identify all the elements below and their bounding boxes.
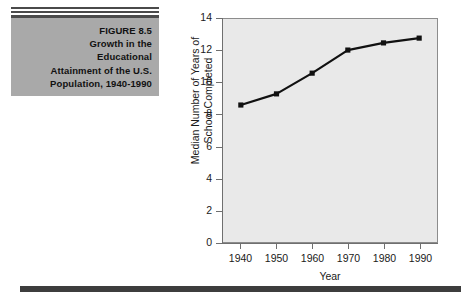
x-tick-1990: 1990: [420, 243, 421, 249]
caption-rule-middle: [11, 11, 159, 13]
figure-title-line-3: Attainment of the U.S.: [17, 64, 152, 77]
x-tick-1950: 1950: [276, 243, 277, 249]
y-axis-title: Median Number of Years of School Complet…: [189, 17, 214, 185]
x-tick-label-1970: 1970: [337, 252, 360, 265]
x-tick-label-1950: 1950: [265, 252, 288, 265]
y-tick-label-0: 0: [206, 236, 212, 249]
x-axis-spine: [222, 243, 438, 244]
y-tick-12: 12: [216, 50, 222, 51]
caption-rule-top: [11, 7, 159, 9]
figure-number: FIGURE 8.5: [17, 24, 152, 37]
figure-title-line-4: Population, 1940-1990: [17, 77, 152, 90]
x-tick-label-1940: 1940: [229, 252, 252, 265]
figure-title-line-2: Educational: [17, 50, 152, 63]
data-point-1960: [310, 71, 315, 76]
figure-caption-box: FIGURE 8.5 Growth in the Educational Att…: [11, 18, 159, 96]
data-point-1980: [381, 40, 386, 45]
line-chart: 02468101214 194019501960197019801990 Yea…: [168, 8, 453, 293]
figure-caption-block: FIGURE 8.5 Growth in the Educational Att…: [11, 7, 159, 96]
y-tick-label-2: 2: [206, 204, 212, 217]
y-tick-10: 10: [216, 82, 222, 83]
plot-area: [222, 18, 438, 243]
y-axis-spine: [222, 18, 223, 243]
page-bottom-rule: [20, 286, 461, 292]
x-tick-1940: 1940: [240, 243, 241, 249]
data-point-1990: [417, 36, 422, 41]
y-tick-4: 4: [216, 179, 222, 180]
data-point-1940: [238, 102, 243, 107]
x-tick-1960: 1960: [312, 243, 313, 249]
x-tick-1980: 1980: [384, 243, 385, 249]
x-tick-label-1960: 1960: [301, 252, 324, 265]
x-tick-label-1990: 1990: [409, 252, 432, 265]
y-tick-2: 2: [216, 211, 222, 212]
plot-svg: [223, 19, 437, 242]
y-tick-0: 0: [216, 243, 222, 244]
y-axis-title-line-2: School Completed: [201, 17, 214, 185]
data-series-line: [241, 38, 419, 105]
y-axis-title-line-1: Median Number of Years of: [189, 17, 202, 185]
x-axis-title: Year: [222, 270, 438, 282]
data-point-1970: [345, 47, 350, 52]
x-tick-label-1980: 1980: [373, 252, 396, 265]
y-tick-14: 14: [216, 18, 222, 19]
data-point-1950: [274, 91, 279, 96]
y-tick-8: 8: [216, 114, 222, 115]
figure-title-line-1: Growth in the: [17, 37, 152, 50]
x-tick-1970: 1970: [348, 243, 349, 249]
y-tick-6: 6: [216, 147, 222, 148]
